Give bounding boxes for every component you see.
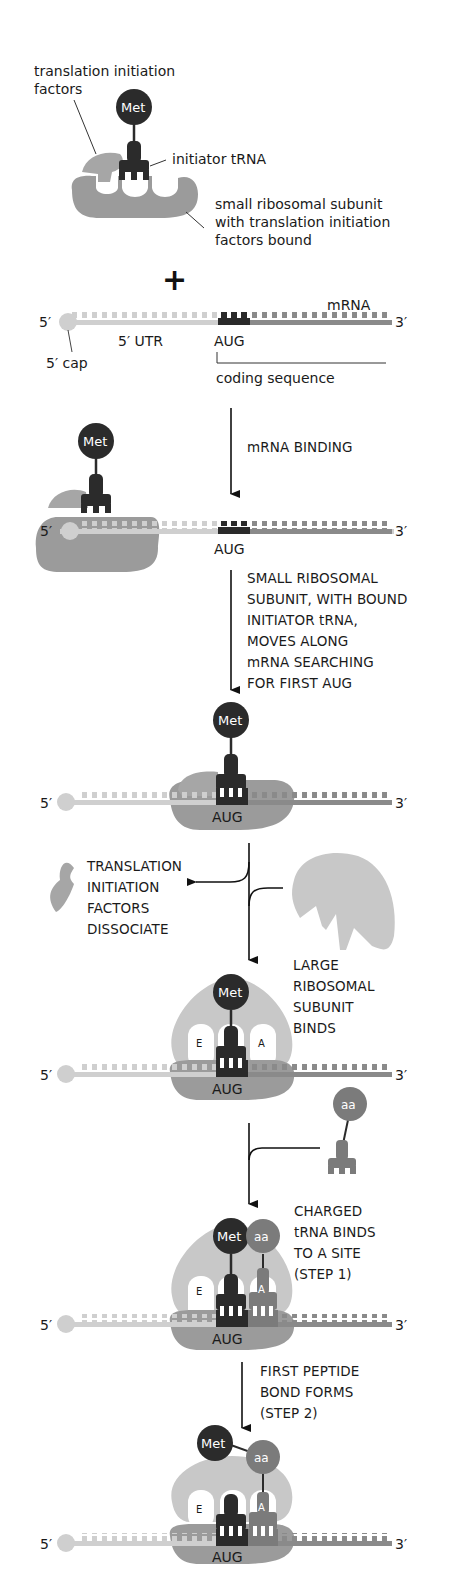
small-ribosomal-subunit-shape xyxy=(72,176,198,218)
label-aug: AUG xyxy=(212,808,243,826)
step-mrna-binding: mRNA BINDING xyxy=(247,437,353,458)
step-large-subunit-binds: LARGE RIBOSOMAL SUBUNIT BINDS xyxy=(293,955,375,1039)
step-scanning: SMALL RIBOSOMAL SUBUNIT, WITH BOUND INIT… xyxy=(247,568,407,694)
label-three-prime: 3′ xyxy=(395,1066,407,1084)
met-label: Met xyxy=(83,433,107,451)
label-aug: AUG xyxy=(214,540,245,558)
aa-label: aa xyxy=(254,1228,269,1246)
label-five-prime: 5′ xyxy=(40,1316,52,1334)
met-label: Met xyxy=(218,984,242,1002)
label-five-prime: 5′ xyxy=(40,522,52,540)
e-site-label: E xyxy=(196,1286,202,1297)
a-site-label: A xyxy=(258,1038,265,1049)
label-five-prime: 5′ xyxy=(40,1066,52,1084)
step-peptide-bond: FIRST PEPTIDE BOND FORMS (STEP 2) xyxy=(260,1361,360,1424)
label-five-prime: 5′ xyxy=(39,313,51,331)
label-small-subunit: small ribosomal subunit with translation… xyxy=(215,195,390,249)
aa-label: aa xyxy=(254,1449,269,1467)
e-site-label: E xyxy=(196,1504,202,1515)
label-five-cap: 5′ cap xyxy=(46,354,88,372)
label-aug: AUG xyxy=(212,1548,243,1566)
aa-label: aa xyxy=(341,1096,356,1114)
label-coding-sequence: coding sequence xyxy=(216,369,335,387)
label-mrna: mRNA xyxy=(327,296,370,314)
met-label: Met xyxy=(201,1435,225,1453)
a-site-label: A xyxy=(258,1502,265,1513)
label-three-prime: 3′ xyxy=(395,1316,407,1334)
label-translation-initiation-factors: translation initiation factors xyxy=(34,62,175,98)
label-five-prime: 5′ xyxy=(40,794,52,812)
label-initiator-trna: initiator tRNA xyxy=(172,150,266,168)
dissociated-factors-shape xyxy=(50,863,74,912)
met-label: Met xyxy=(121,99,145,117)
large-ribosomal-subunit-free-shape xyxy=(292,853,395,950)
label-three-prime: 3′ xyxy=(395,794,407,812)
five-prime-cap-shape xyxy=(59,313,77,331)
label-five-prime: 5′ xyxy=(40,1535,52,1553)
translation-initiation-diagram: translation initiation factors Met initi… xyxy=(0,0,468,1593)
label-aug: AUG xyxy=(212,1330,243,1348)
label-aug: AUG xyxy=(214,332,245,350)
label-three-prime: 3′ xyxy=(395,1535,407,1553)
met-label: Met xyxy=(217,1228,241,1246)
step-charged-trna-binds: CHARGED tRNA BINDS TO A SITE (STEP 1) xyxy=(294,1201,376,1285)
label-five-utr: 5′ UTR xyxy=(118,332,163,350)
label-three-prime: 3′ xyxy=(395,313,407,331)
arrow-group-dissociation xyxy=(196,843,283,960)
label-aug: AUG xyxy=(212,1080,243,1098)
a-site-label: A xyxy=(258,1284,265,1295)
met-label: Met xyxy=(218,712,242,730)
e-site-label: E xyxy=(196,1038,202,1049)
step-factors-dissociate: TRANSLATION INITIATION FACTORS DISSOCIAT… xyxy=(87,856,182,940)
plus-sign: + xyxy=(162,262,187,297)
label-three-prime: 3′ xyxy=(395,522,407,540)
